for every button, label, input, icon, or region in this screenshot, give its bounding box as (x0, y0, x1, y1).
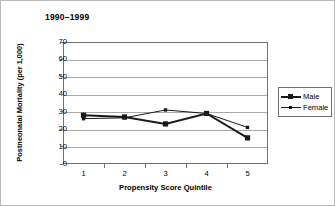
legend-marker-female (281, 103, 301, 112)
gridline (64, 147, 267, 148)
y-tick-mark (60, 76, 63, 77)
plot-area (63, 42, 268, 164)
legend-label-male: Male (301, 92, 319, 101)
legend-label-female: Female (301, 103, 328, 112)
x-tick-mark (227, 164, 228, 168)
y-tick-label: 0 (45, 160, 67, 168)
legend-item-female: Female (281, 102, 328, 113)
y-tick-mark (60, 59, 63, 60)
legend-item-male: Male (281, 91, 328, 102)
x-axis-title: Propensity Score Quintile (63, 183, 268, 192)
y-tick-mark (60, 42, 63, 43)
x-tick-label: 3 (156, 169, 176, 178)
gridline (64, 130, 267, 131)
y-axis-title: Postneonatal Mortality (per 1,000) (15, 33, 24, 173)
y-tick-mark (60, 164, 63, 165)
chart-legend: Male Female (278, 87, 332, 117)
y-tick-label: 50 (45, 73, 67, 81)
y-tick-label: 30 (45, 108, 67, 116)
chart-figure: 1990–1999 Postneonatal Mortality (per 1,… (0, 0, 335, 206)
y-tick-label: 60 (45, 55, 67, 63)
gridline (64, 77, 267, 78)
x-tick-label: 2 (115, 169, 135, 178)
y-tick-mark (60, 111, 63, 112)
gridline (64, 112, 267, 113)
legend-marker-male (281, 92, 301, 101)
y-tick-mark (60, 129, 63, 130)
gridline (64, 95, 267, 96)
y-tick-mark (60, 94, 63, 95)
gridline (64, 60, 267, 61)
chart-title: 1990–1999 (45, 12, 89, 22)
y-tick-label: 70 (45, 38, 67, 46)
y-tick-label: 20 (45, 125, 67, 133)
x-tick-mark (186, 164, 187, 168)
x-tick-label: 4 (197, 169, 217, 178)
y-tick-mark (60, 146, 63, 147)
x-tick-mark (145, 164, 146, 168)
y-tick-label: 10 (45, 143, 67, 151)
y-tick-label: 40 (45, 90, 67, 98)
x-tick-label: 5 (238, 169, 258, 178)
x-tick-mark (104, 164, 105, 168)
x-tick-label: 1 (74, 169, 94, 178)
